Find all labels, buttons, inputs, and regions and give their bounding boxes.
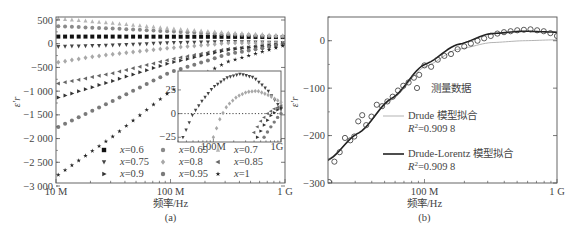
- legend-item: x=0.75: [102, 156, 149, 167]
- legend-label: x=0.9: [119, 168, 144, 179]
- legend-measured-label: 测量数据: [431, 82, 472, 94]
- y-tick-label: −2 000: [23, 133, 53, 144]
- y-tick-label: 0: [320, 35, 325, 46]
- legend-item: x=0.65: [161, 144, 208, 155]
- y-axis-title: ε′r: [289, 96, 300, 107]
- legend-item: x=0.95: [161, 168, 208, 179]
- chart-panel-b: 0−100−200−300100 M1 G频率/Hzε′r测量数据Drude 模…: [292, 0, 583, 243]
- legend-a: x=0.6x=0.65x=0.7x=0.75x=0.8x=0.85x=0.9x=…: [102, 144, 263, 179]
- y-tick-label: −1 000: [23, 86, 53, 97]
- y-tick-label: 0: [48, 38, 53, 49]
- inset-x-tick-label: 1G: [271, 141, 284, 152]
- legend-label: x=0.85: [233, 156, 263, 167]
- x-tick-label: 1 G: [549, 186, 565, 197]
- caption-a: (a): [165, 212, 177, 224]
- x-axis-title: 频率/Hz: [153, 197, 189, 209]
- chart-a-svg: 5000−500−1 000−1 500−2 000−2 500−3 00010…: [0, 0, 292, 243]
- fit-line-drude-lorentz: [328, 31, 557, 160]
- legend-item: x=0.85: [215, 156, 263, 167]
- x-tick-label: 10 M: [45, 186, 68, 197]
- x-tick-label: 100 M: [157, 186, 185, 197]
- y-tick-label: −1 500: [23, 109, 53, 120]
- legend-dl-label: Drude-Lorentz 模型拟合: [408, 147, 514, 159]
- inset-y-tick-label: −25: [160, 131, 176, 142]
- legend-drude-r2: R2=0.909 8: [407, 122, 455, 134]
- legend-item: x=0.6: [102, 144, 144, 155]
- y-tick-label: 500: [37, 15, 53, 26]
- inset-frame: [178, 71, 281, 142]
- legend-label: x=0.7: [233, 144, 258, 155]
- inset-y-tick-label: 25: [166, 84, 177, 95]
- legend-label: x=0.65: [178, 144, 208, 155]
- legend-drude-label: Drude 模型拟合: [408, 109, 478, 121]
- legend-item: x=0.8: [161, 156, 203, 167]
- x-axis-title: 频率/Hz: [407, 197, 443, 209]
- y-axis-title: ε′r: [11, 96, 22, 107]
- y-tick-label: −2 500: [23, 157, 53, 168]
- y-tick-label: −200: [303, 130, 325, 141]
- legend-label: x=0.75: [119, 156, 149, 167]
- legend-label: x=0.8: [178, 156, 203, 167]
- chart-b-svg: 0−100−200−300100 M1 G频率/Hzε′r测量数据Drude 模…: [292, 0, 583, 243]
- legend-measured-marker: [414, 85, 419, 90]
- legend-item: x=1: [216, 168, 250, 179]
- y-tick-label: −500: [31, 62, 53, 73]
- legend-b: 测量数据Drude 模型拟合R2=0.909 8Drude-Lorentz 模型…: [383, 82, 514, 172]
- y-tick-label: −100: [303, 83, 325, 94]
- legend-label: x=1: [233, 168, 250, 179]
- inset-y-tick-label: 0: [171, 108, 176, 119]
- legend-label: x=0.6: [119, 144, 144, 155]
- chart-panel-a: 5000−500−1 000−1 500−2 000−2 500−3 00010…: [0, 0, 292, 243]
- x-tick-label: 100 M: [411, 186, 439, 197]
- legend-label: x=0.95: [178, 168, 208, 179]
- legend-dl-r2: R2=0.909 8: [407, 160, 455, 172]
- x-tick-label: 1 G: [277, 186, 293, 197]
- y-tick-label: −300: [303, 178, 325, 189]
- caption-b: (b): [418, 212, 431, 224]
- legend-item: x=0.9: [102, 168, 143, 179]
